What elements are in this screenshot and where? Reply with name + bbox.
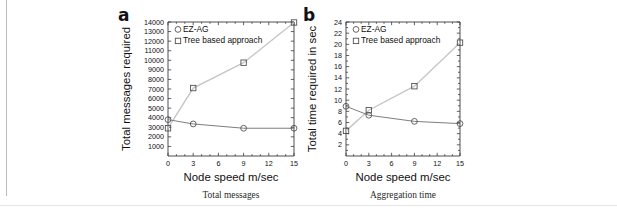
y-tick-label: 12000 — [144, 37, 164, 46]
x-tick-label: 9 — [412, 159, 416, 168]
legend-label-ez-ag: EZ-AG — [183, 24, 209, 34]
x-tick-label: 3 — [191, 159, 195, 168]
panel-caption: Aggregation time — [370, 190, 436, 200]
legend-label-ez-ag: EZ-AG — [361, 24, 387, 34]
y-axis-title: Total messages required — [120, 27, 132, 151]
y-tick-label: 10 — [334, 96, 342, 105]
y-tick-label: 13000 — [144, 27, 164, 36]
y-tick-label: 14000 — [144, 18, 164, 27]
y-tick-label: 8 — [338, 107, 342, 116]
x-tick-label: 0 — [166, 159, 170, 168]
legend-label-tree-based: Tree based approach — [361, 35, 441, 45]
x-axis-title: Node speed m/sec — [356, 171, 451, 183]
y-tick-label: 11000 — [145, 46, 164, 55]
y-tick-label: 24 — [334, 18, 342, 27]
series-line-ez-ag — [168, 120, 294, 129]
series-line-tree-based — [346, 43, 460, 131]
x-tick-label: 6 — [216, 159, 220, 168]
y-tick-label: 2000 — [148, 132, 164, 141]
panel-caption: Total messages — [203, 190, 260, 200]
plot-b-svg: 2468101214161820222403691215EZ-AGTree ba… — [296, 0, 526, 212]
y-tick-label: 20 — [334, 40, 342, 49]
y-tick-label: 10000 — [144, 56, 164, 65]
chart-panel-b: b 2468101214161820222403691215EZ-AGTree … — [296, 0, 526, 212]
y-tick-label: 9000 — [148, 65, 164, 74]
x-tick-label: 6 — [390, 159, 394, 168]
y-tick-label: 22 — [334, 29, 342, 38]
legend-square-marker-icon — [353, 38, 358, 43]
chart-panel-a: a 10002000300040005000600070008000900010… — [108, 0, 303, 212]
y-tick-label: 14 — [334, 73, 342, 82]
legend-circle-marker-icon — [353, 27, 359, 33]
legend-circle-marker-icon — [175, 27, 181, 33]
y-tick-label: 3000 — [148, 123, 164, 132]
y-tick-label: 2 — [338, 140, 342, 149]
y-axis-title: Total time required in sec — [306, 25, 318, 152]
y-tick-label: 8000 — [148, 75, 164, 84]
y-tick-label: 16 — [334, 62, 342, 71]
figure-container: a 10002000300040005000600070008000900010… — [0, 0, 617, 212]
y-tick-label: 6000 — [148, 94, 164, 103]
x-tick-label: 12 — [433, 159, 441, 168]
y-tick-label: 4 — [338, 129, 342, 138]
y-tick-label: 18 — [334, 51, 342, 60]
x-tick-label: 0 — [344, 159, 348, 168]
left-border-rule — [6, 0, 7, 196]
plot-a-svg: 1000200030004000500060007000800090001000… — [108, 0, 303, 212]
y-tick-label: 7000 — [148, 85, 164, 94]
y-tick-label: 12 — [334, 85, 342, 94]
x-axis-title: Node speed m/sec — [184, 171, 279, 183]
x-tick-label: 3 — [367, 159, 371, 168]
x-tick-label: 9 — [242, 159, 246, 168]
y-tick-label: 6 — [338, 118, 342, 127]
legend-label-tree-based: Tree based approach — [183, 35, 263, 45]
legend-square-marker-icon — [175, 38, 180, 43]
x-tick-label: 15 — [456, 159, 464, 168]
y-tick-label: 5000 — [148, 104, 164, 113]
y-tick-label: 4000 — [148, 113, 164, 122]
x-tick-label: 12 — [265, 159, 273, 168]
y-tick-label: 1000 — [148, 142, 164, 151]
